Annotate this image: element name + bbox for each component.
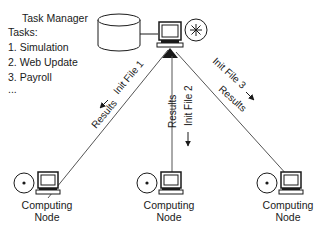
server-computer-icon <box>157 22 183 47</box>
link-node-2: Results Init File 2 <box>167 56 194 178</box>
computing-node-2-label: Computing Node <box>134 199 204 223</box>
link-3-forward-label: Init File 3 <box>211 55 249 91</box>
link-1-back-label: Results <box>89 98 119 131</box>
diagram-canvas: Init File 1 Results Results Init File 2 … <box>0 0 327 231</box>
computing-node-1-icon <box>14 172 60 194</box>
computing-node-2-icon <box>137 172 183 194</box>
link-2-forward-label: Init File 2 <box>183 85 194 126</box>
disc-star-icon <box>185 19 207 41</box>
computing-node-1-label: Computing Node <box>12 199 82 223</box>
computing-node-3-icon <box>257 172 303 194</box>
database-icon <box>98 14 158 51</box>
link-2-back-label: Results <box>167 95 178 128</box>
link-3-back-label: Results <box>217 83 249 113</box>
computing-node-3-label: Computing Node <box>253 199 323 223</box>
link-1-forward-label: Init File 1 <box>111 58 146 96</box>
